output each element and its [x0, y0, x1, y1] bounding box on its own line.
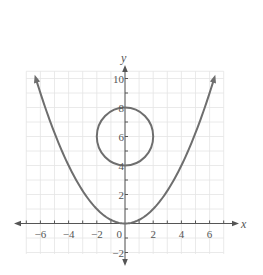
x-axis-right-arrow-icon — [232, 221, 239, 227]
graph: −6−4−20246−2246810xy — [0, 0, 263, 275]
x-tick-label: 6 — [207, 228, 213, 240]
parabola-left-arrow-icon — [34, 75, 40, 84]
y-tick-label: 4 — [119, 160, 125, 172]
y-tick-label: −2 — [112, 247, 124, 259]
x-axis-label: x — [240, 217, 247, 231]
y-tick-label: 10 — [113, 73, 125, 85]
x-tick-label: −4 — [63, 228, 75, 240]
x-tick-label: 2 — [150, 228, 156, 240]
parabola-right-arrow-icon — [210, 75, 216, 84]
y-tick-label: 8 — [119, 102, 125, 114]
x-tick-label: −6 — [35, 228, 47, 240]
x-tick-label: 0 — [117, 228, 123, 240]
y-tick-label: 6 — [119, 131, 125, 143]
x-tick-label: −2 — [91, 228, 103, 240]
y-axis-up-arrow-icon — [122, 65, 128, 72]
x-axis-left-arrow-icon — [14, 221, 21, 227]
y-axis-label: y — [120, 51, 127, 65]
y-axis-down-arrow-icon — [122, 259, 128, 266]
x-tick-label: 4 — [179, 228, 185, 240]
y-tick-label: 2 — [119, 189, 125, 201]
